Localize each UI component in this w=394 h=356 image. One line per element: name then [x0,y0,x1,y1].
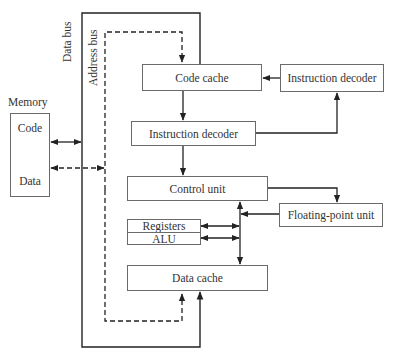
control-unit-to-fpu-arrow [268,188,337,202]
instruction-decoder-right-block: Instruction decoder [280,64,384,92]
address-bus-line-bottom [105,190,182,321]
memory-title: Memory [8,96,48,108]
code-cache-block: Code cache [142,64,262,91]
address-bus-label: Address bus [87,29,99,86]
alu-block: ALU [127,232,201,245]
memory-code-section: Code [18,122,42,134]
registers-block: Registers [127,219,201,233]
memory-block: Code Data [10,113,50,197]
control-unit-block: Control unit [127,176,268,201]
decoder-to-right-decoder-arrow [256,93,337,133]
data-bus-label: Data bus [61,21,73,62]
floating-point-unit-block: Floating-point unit [279,203,383,227]
address-bus-line-top [105,32,182,190]
instruction-decoder-main-block: Instruction decoder [131,121,256,146]
memory-data-section: Data [19,175,41,187]
data-cache-block: Data cache [127,265,268,291]
